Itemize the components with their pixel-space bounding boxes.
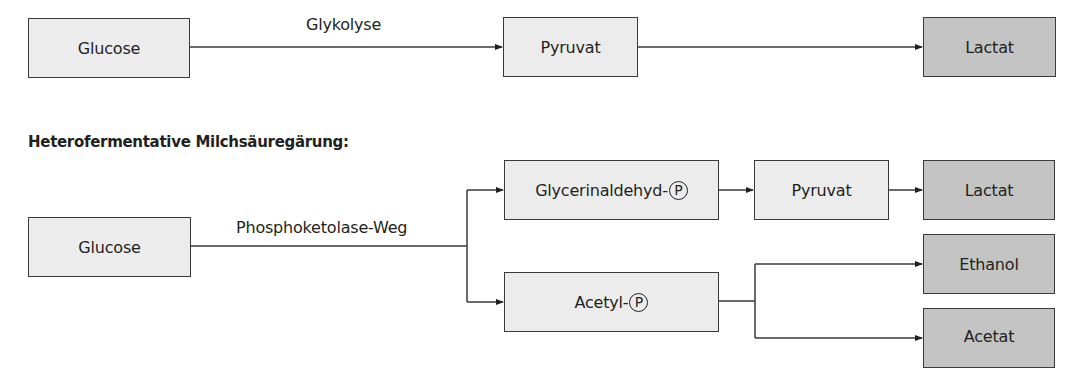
heterofermentative-heading: Heterofermentative Milchsäuregärung: — [28, 133, 349, 151]
lactat-box-homo: Lactat — [923, 17, 1056, 77]
glucose-label: Glucose — [78, 238, 140, 257]
pyruvat-box-hetero: Pyruvat — [754, 160, 889, 220]
glucose-label: Glucose — [78, 39, 140, 58]
ethanol-label: Ethanol — [959, 255, 1018, 274]
glycerinaldehyd-p-box: Glycerinaldehyd-P — [504, 160, 719, 220]
lactat-label: Lactat — [965, 38, 1014, 57]
pyruvat-box-homo: Pyruvat — [503, 17, 638, 77]
glycerinaldehyd-label: Glycerinaldehyd- — [535, 181, 668, 200]
pyruvat-label: Pyruvat — [792, 181, 852, 200]
acetyl-label: Acetyl- — [575, 293, 629, 312]
acetat-box: Acetat — [923, 308, 1055, 368]
pyruvat-label: Pyruvat — [541, 38, 601, 57]
glykolyse-edge-label: Glykolyse — [306, 15, 381, 34]
glucose-box-hetero: Glucose — [28, 217, 191, 277]
phosphate-circle-icon: P — [629, 293, 648, 312]
phosphoketolase-edge-label: Phosphoketolase-Weg — [236, 218, 407, 237]
glucose-box-homo: Glucose — [28, 18, 190, 78]
ethanol-box: Ethanol — [923, 234, 1055, 294]
phosphate-circle-icon: P — [669, 181, 688, 200]
lactat-label: Lactat — [965, 181, 1014, 200]
lactat-box-hetero: Lactat — [923, 160, 1055, 220]
acetat-label: Acetat — [964, 327, 1014, 346]
acetyl-p-box: Acetyl-P — [504, 272, 719, 332]
